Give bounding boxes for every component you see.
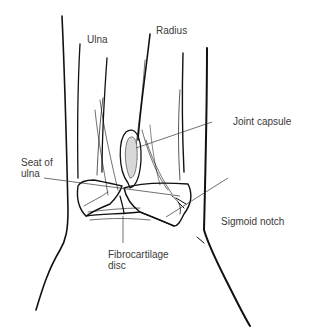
anatomy-diagram: Ulna Radius Joint capsule Seat of ulna S… [0,0,309,335]
label-joint-capsule: Joint capsule [233,116,291,127]
label-seat-of-ulna-line2: ulna [21,168,40,179]
label-fibrocartilage-disc-line2: disc [108,260,126,271]
label-seat-of-ulna-line1: Seat of [21,157,53,168]
label-radius: Radius [156,25,187,36]
label-sigmoid-notch: Sigmoid notch [221,216,284,227]
label-fibrocartilage-disc-line1: Fibrocartilage [108,249,169,260]
label-ulna: Ulna [87,34,108,45]
